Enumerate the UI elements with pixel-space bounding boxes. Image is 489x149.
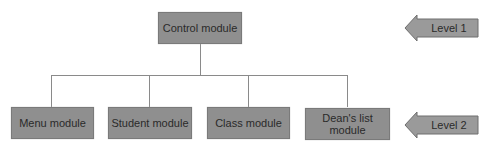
child-connector-class bbox=[248, 75, 249, 107]
horizontal-connector bbox=[51, 75, 348, 76]
level-1-label: Level 1 bbox=[420, 19, 478, 37]
student-module-box: Student module bbox=[108, 107, 192, 139]
deans-list-module-box: Dean's list module bbox=[305, 108, 390, 140]
class-module-label: Class module bbox=[215, 117, 282, 129]
deans-list-module-label: Dean's list module bbox=[320, 112, 375, 136]
root-connector bbox=[200, 43, 201, 75]
menu-module-label: Menu module bbox=[19, 117, 86, 129]
level-2-label: Level 2 bbox=[420, 116, 478, 134]
menu-module-box: Menu module bbox=[11, 107, 94, 139]
child-connector-student bbox=[149, 75, 150, 107]
control-module-label: Control module bbox=[163, 22, 238, 34]
student-module-label: Student module bbox=[111, 117, 188, 129]
control-module-box: Control module bbox=[158, 12, 242, 44]
child-connector-deans-list bbox=[347, 75, 348, 107]
class-module-box: Class module bbox=[207, 107, 290, 139]
child-connector-menu bbox=[51, 75, 52, 107]
